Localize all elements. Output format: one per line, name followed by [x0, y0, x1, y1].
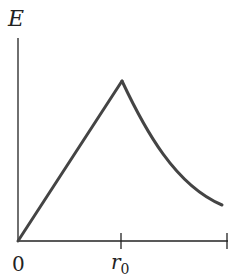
field-diagram	[0, 0, 235, 278]
linear-rise-line	[18, 81, 122, 241]
r0-subscript: 0	[121, 261, 130, 277]
decay-curve	[122, 81, 222, 205]
r0-base: r	[111, 250, 121, 274]
origin-label: 0	[12, 252, 25, 276]
y-axis-label: E	[8, 6, 24, 31]
r0-label: r0	[111, 250, 129, 277]
